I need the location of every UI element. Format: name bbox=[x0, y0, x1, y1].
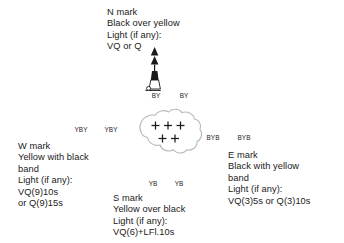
west-pillar-buoy-label: YBY bbox=[68, 126, 94, 133]
danger-area-group bbox=[140, 109, 202, 153]
north-topmark-cone-upper bbox=[151, 47, 159, 55]
buoy-float bbox=[147, 86, 151, 90]
cardinal-marks-diagram bbox=[0, 0, 344, 243]
north-topmark-cone-lower bbox=[151, 56, 159, 64]
buoy-body-black bbox=[151, 71, 159, 80]
north-spar-buoy-label: BY bbox=[171, 92, 197, 99]
danger-area-outline bbox=[140, 109, 202, 153]
north-pillar-buoy-label: BY bbox=[143, 92, 169, 99]
east-spar-buoy-label: BYB bbox=[230, 134, 258, 141]
east-pillar-buoy-label: BYB bbox=[199, 134, 227, 141]
north-pillar-buoy bbox=[145, 47, 160, 90]
west-spar-buoy-label: YBY bbox=[98, 126, 124, 133]
south-spar-buoy-label: YB bbox=[167, 180, 191, 187]
south-pillar-buoy-label: YB bbox=[141, 180, 165, 187]
